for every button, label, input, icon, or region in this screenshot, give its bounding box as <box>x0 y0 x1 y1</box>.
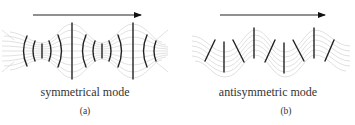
field-grid-b <box>192 30 350 77</box>
caption-symmetrical: symmetrical mode <box>41 85 130 99</box>
caption-antisymmetric: antisymmetric mode <box>219 85 317 99</box>
sublabel-b: (b) <box>280 106 291 117</box>
sublabel-a: (a) <box>80 106 91 117</box>
field-lines-b <box>205 28 334 73</box>
panel-b-antisymmetric: antisymmetric mode (b) <box>192 15 350 117</box>
mode-diagram: symmetrical mode (a) antisymmetric mode <box>0 0 355 125</box>
panel-a-symmetrical: symmetrical mode (a) <box>2 15 168 117</box>
